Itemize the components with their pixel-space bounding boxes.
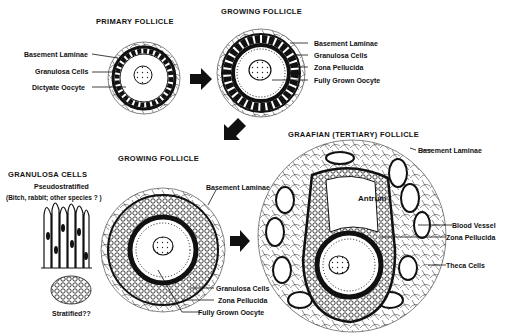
graafian-label-basement-laminae: Basement Laminae [418, 147, 482, 154]
growing-top-label-granulosa-cells: Granulosa Cells [314, 52, 367, 59]
graafian-label-antrum: Antrum [358, 195, 386, 203]
growing-top-label-basement-laminae: Basement Laminae [314, 40, 378, 47]
graafian-label-zona-pellucida: Zona Pellucida [446, 234, 495, 241]
growing-bottom-label-fully-grown-oocyte: Fully Grown Oocyte [198, 309, 264, 316]
granulosa-species-note: (Bitch, rabbit; other species ? ) [6, 195, 102, 202]
primary-label-dictyate-oocyte: Dictyate Oocyte [32, 84, 85, 91]
primary-label-basement-laminae: Basement Laminae [24, 51, 88, 58]
growing-bottom-label-zona-pellucida: Zona Pellucida [218, 297, 267, 304]
growing-top-label-zona-pellucida: Zona Pellucida [314, 64, 363, 71]
growing-follicle-top-title: GROWING FOLLICLE [221, 8, 302, 16]
granulosa-label-stratified: Stratified?? [52, 310, 91, 317]
growing-follicle-bottom-title: GROWING FOLLICLE [118, 155, 199, 163]
granulosa-cells-title: GRANULOSA CELLS [8, 171, 87, 179]
primary-follicle-drawing [92, 42, 180, 114]
arrow-down-left-icon [224, 118, 246, 140]
growing-top-label-fully-grown-oocyte: Fully Grown Oocyte [314, 77, 380, 84]
graafian-label-blood-vessel: Blood Vessel [452, 222, 496, 229]
primary-follicle-title: PRIMARY FOLLICLE [96, 18, 174, 26]
granulosa-subtitle-pseudostratified: Pseudostratified [34, 183, 89, 190]
arrow-right-icon [190, 68, 212, 90]
stratified-cells-drawing [51, 276, 91, 304]
arrow-right-icon-2 [230, 230, 250, 252]
graafian-follicle-drawing [258, 140, 452, 332]
graafian-follicle-title: GRAAFIAN (TERTIARY) FOLLICLE [288, 131, 419, 139]
primary-label-granulosa-cells: Granulosa Cells [35, 68, 88, 75]
pseudostratified-cells-drawing [41, 202, 92, 268]
growing-follicle-top-drawing [217, 29, 308, 117]
growing-bottom-label-basement-laminae: Basement Laminae [206, 184, 270, 191]
growing-bottom-label-basement: Basement Laminae [206, 184, 270, 191]
growing-follicle-bottom-drawing [101, 188, 225, 312]
growing-bottom-label-granulosa-cells: Granulosa Cells [216, 285, 269, 292]
graafian-label-theca-cells: Theca Cells [446, 262, 485, 269]
